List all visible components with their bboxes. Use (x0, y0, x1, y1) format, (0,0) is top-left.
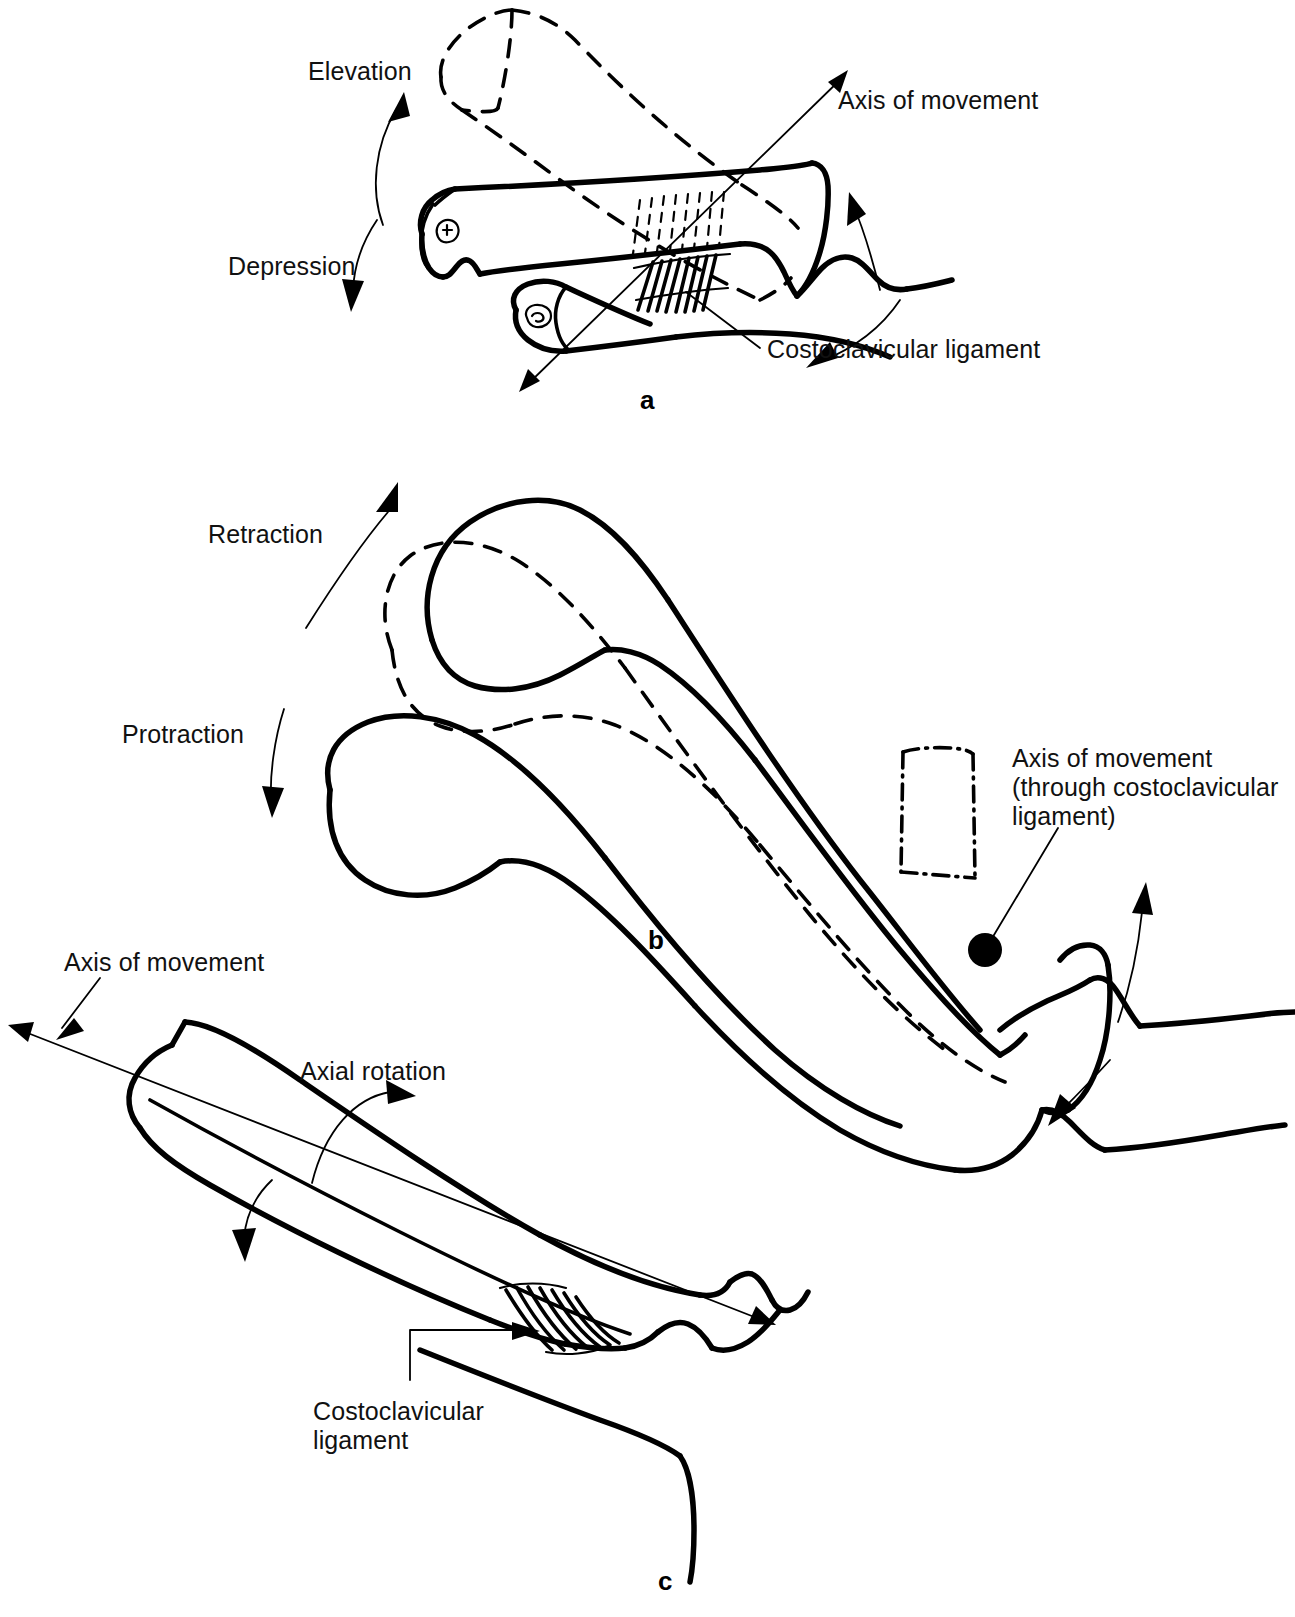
panel-letter-b: b (648, 925, 664, 956)
retraction-label: Retraction (208, 519, 323, 550)
sternal-end-detail-c (420, 1273, 808, 1582)
clavicle-solid-outline-b (427, 500, 1000, 1055)
costoclavicular-ligament-label-a: Costoclavicular ligament (767, 334, 1040, 365)
costoclavicular-ligament-label-c-line2: ligament (313, 1425, 408, 1456)
depression-label: Depression (228, 251, 355, 282)
sternal-end-detail-b (955, 945, 1295, 1171)
axis-of-movement-label-b-line2: (through costoclavicular (1012, 772, 1278, 803)
axis-of-movement-label-a: Axis of movement (838, 85, 1038, 116)
costoclavicular-ligament-label-c-line1: Costoclavicular (313, 1396, 484, 1427)
cross-section-dashdot-rect (901, 748, 975, 878)
axis-of-movement-label-b-line3: ligament) (1012, 801, 1116, 832)
axis-of-movement-label-b-line1: Axis of movement (1012, 743, 1212, 774)
elevation-label: Elevation (308, 56, 412, 87)
axial-rotation-label: Axial rotation (300, 1056, 446, 1087)
figure-page: Elevation Depression Axis of movement Co… (0, 0, 1295, 1617)
costoclavicular-ligament-hatching-c (500, 1284, 619, 1355)
costoclavicular-ligament-leader-a (686, 292, 760, 348)
clavicle-dashed-outline-b (385, 542, 1005, 1082)
clavicle-lateral-end-and-rib (740, 244, 952, 296)
axial-rotation-arrow-upper (312, 1080, 416, 1183)
clavicle-lower-solid-outline-b (328, 716, 955, 1170)
protraction-arrow (262, 709, 284, 818)
elevation-arrow (376, 92, 410, 225)
panel-letter-a: a (640, 385, 654, 416)
panel-letter-c: c (658, 1566, 672, 1597)
protraction-label: Protraction (122, 719, 244, 750)
clavicle-solid-outline (420, 163, 828, 296)
axis-of-movement-label-c: Axis of movement (64, 947, 264, 978)
axis-leader-b (985, 828, 1058, 950)
axis-leader-c (56, 978, 100, 1040)
axial-rotation-arrow-lower (232, 1180, 272, 1262)
sternal-end-arrows-b (1048, 882, 1153, 1126)
